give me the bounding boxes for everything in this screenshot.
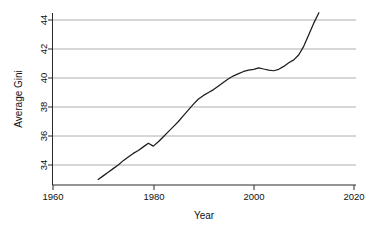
gridlines: [53, 20, 356, 165]
y-tick-labels: 44 42 40 38 36 34: [38, 15, 49, 171]
x-tick-label-1960: 1960: [42, 191, 63, 202]
y-tick-label-42: 42: [38, 44, 49, 55]
y-tick-label-36: 36: [38, 131, 49, 142]
series-line-average-gini: [98, 13, 319, 180]
chart-figure: 44 42 40 38 36 34 1960 1980 2000 2020 Ye…: [0, 0, 378, 231]
x-tick-labels: 1960 1980 2000 2020: [42, 191, 364, 202]
x-axis-title: Year: [194, 210, 215, 221]
y-tick-label-34: 34: [38, 160, 49, 171]
x-tick-marks: [53, 185, 354, 190]
x-tick-label-2000: 2000: [243, 191, 264, 202]
y-tick-label-40: 40: [38, 73, 49, 84]
x-tick-label-2020: 2020: [343, 191, 364, 202]
y-tick-marks: [48, 20, 53, 165]
line-chart: 44 42 40 38 36 34 1960 1980 2000 2020 Ye…: [0, 0, 378, 231]
y-axis-title: Average Gini: [13, 70, 24, 128]
y-tick-label-38: 38: [38, 102, 49, 113]
y-tick-label-44: 44: [38, 15, 49, 26]
x-tick-label-1980: 1980: [143, 191, 164, 202]
